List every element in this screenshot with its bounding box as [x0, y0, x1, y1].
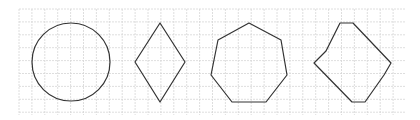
grid-background	[19, 9, 405, 115]
shape-diagram	[0, 0, 420, 120]
